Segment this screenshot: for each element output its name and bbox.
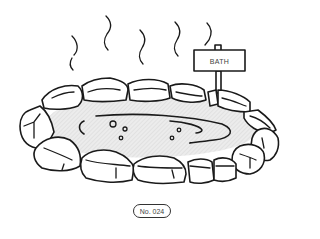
number-badge: No. 024	[133, 204, 171, 218]
sign-label: BATH	[210, 58, 229, 65]
bath-sign: BATH	[194, 45, 245, 93]
steam-wisps	[70, 16, 211, 70]
